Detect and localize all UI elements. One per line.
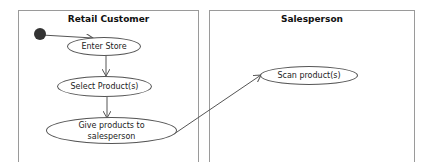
activity-label: Scan product(s) <box>277 70 340 81</box>
activity-label: Enter Store <box>81 41 126 52</box>
edge-give-to-scan <box>174 75 261 134</box>
activity-label: Give products to salesperson <box>77 120 146 142</box>
activity-give-products[interactable]: Give products to salesperson <box>46 117 177 144</box>
activity-enter-store[interactable]: Enter Store <box>67 37 141 56</box>
initial-node[interactable] <box>34 28 46 40</box>
activity-label: Select Product(s) <box>70 81 138 92</box>
activity-select-products[interactable]: Select Product(s) <box>57 76 152 97</box>
activity-scan-products[interactable]: Scan product(s) <box>260 66 358 85</box>
